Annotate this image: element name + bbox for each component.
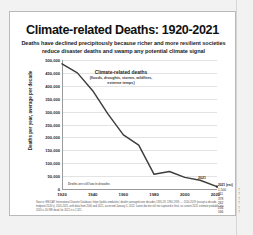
chart-footnote: Source: EM-DAT International Disaster Da…	[36, 201, 224, 213]
annotation-title: Climate-related deaths	[83, 70, 159, 75]
y-axis-tick: 200,000	[32, 135, 60, 140]
data-strip-value: 166	[218, 210, 223, 215]
x-axis-tick: 1980	[149, 192, 159, 197]
y-axis-tick: 300,000	[32, 109, 60, 114]
y-axis-tick: 50,000	[32, 174, 60, 179]
y-axis-tick: 400,000	[32, 83, 60, 88]
slide-frame: Climate-related Deaths: 1920-2021 Deaths…	[9, 11, 236, 216]
y-axis-tick: 0	[32, 187, 60, 192]
baseline-note: Deaths are still low in decades	[68, 182, 110, 186]
last-point-label: 2021	[198, 176, 206, 180]
chart-plot-area: Deaths per year, average per decade 500,…	[10, 12, 236, 216]
series-annotation: Climate-related deaths (floods, droughts…	[83, 70, 159, 85]
y-axis-tick: 250,000	[32, 122, 60, 127]
y-axis-tick: 150,000	[32, 148, 60, 153]
data-strip-mark: †	[238, 210, 240, 215]
data-strip-row: 166†	[218, 210, 240, 215]
data-value-strip: 2021 (est) 1,500†711†378†262†234†166†	[218, 183, 253, 215]
y-axis-tick: 450,000	[32, 70, 60, 75]
x-axis-tick: 2000	[180, 192, 190, 197]
y-axis-tick: 100,000	[32, 161, 60, 166]
y-axis-tick: 350,000	[32, 96, 60, 101]
y-axis-tick: 500,000	[32, 58, 60, 63]
screenshot-canvas: Climate-related Deaths: 1920-2021 Deaths…	[0, 0, 253, 235]
x-axis-tick: 1940	[88, 192, 98, 197]
y-axis-tick-labels: 500,000450,000400,000350,000300,000250,0…	[32, 60, 60, 188]
x-axis-tick: 1960	[119, 192, 129, 197]
annotation-subtitle: (floods, droughts, storms, wildfires, ex…	[83, 76, 159, 85]
x-axis-tick: 1920	[57, 192, 67, 197]
